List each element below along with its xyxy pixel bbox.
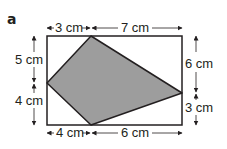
- dim-left-lower: 4 cm: [15, 84, 43, 125]
- dim-bottom-right-label: 6 cm: [121, 125, 149, 140]
- dim-bottom-left: 4 cm: [47, 125, 90, 140]
- dim-top-right-label: 7 cm: [121, 20, 149, 35]
- dim-left-upper: 5 cm: [15, 36, 43, 82]
- dim-top-left-label: 3 cm: [55, 20, 83, 35]
- shaded-quadrilateral: [47, 36, 182, 125]
- dim-right-upper: 6 cm: [185, 36, 213, 92]
- diagram-canvas: a 3 cm 7 cm 5 cm 4 cm 6 cm 3 cm: [0, 0, 227, 149]
- dim-top-right: 7 cm: [92, 20, 182, 35]
- dim-right-lower-label: 3 cm: [185, 100, 213, 115]
- part-label: a: [7, 11, 16, 27]
- dim-left-upper-label: 5 cm: [15, 52, 43, 67]
- dim-top-left: 3 cm: [47, 20, 90, 35]
- dim-bottom-left-label: 4 cm: [56, 125, 84, 140]
- dim-right-upper-label: 6 cm: [185, 56, 213, 71]
- dim-right-lower: 3 cm: [185, 94, 213, 125]
- dim-bottom-right: 6 cm: [92, 125, 182, 140]
- dim-left-lower-label: 4 cm: [15, 93, 43, 108]
